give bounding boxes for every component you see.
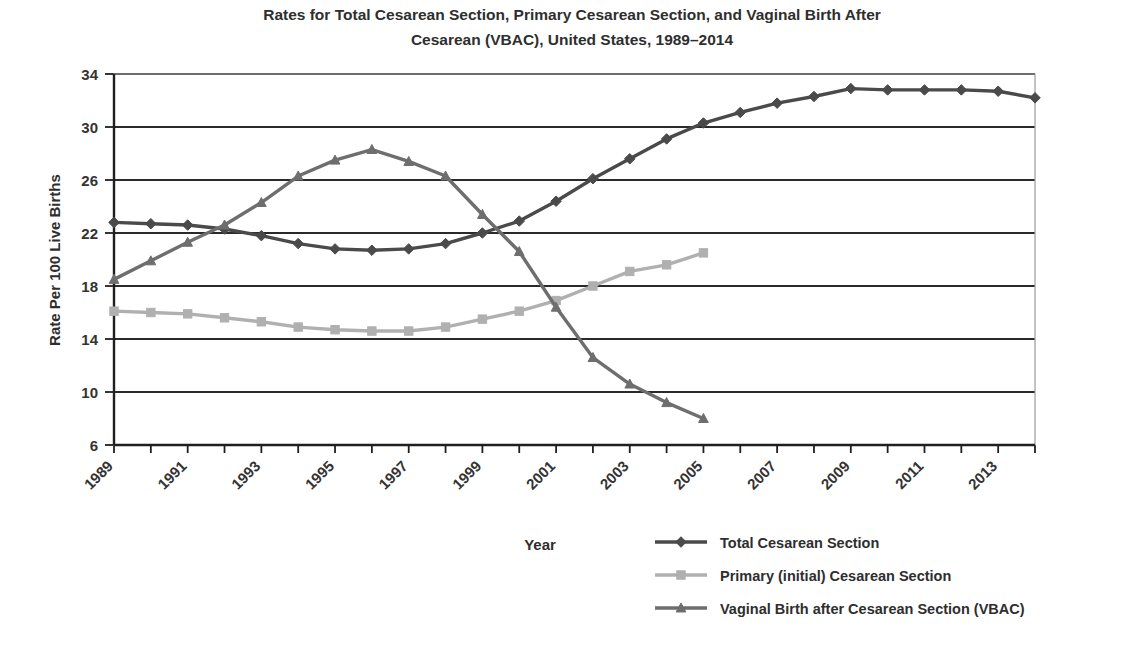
data-point-marker [699,249,707,257]
legend-item-label: Vaginal Birth after Cesarean Section (VB… [720,601,1025,617]
data-point-marker [257,318,265,326]
data-point-marker [110,307,118,315]
data-point-marker [441,323,449,331]
chart-title-line-2: Cesarean (VBAC), United States, 1989–201… [411,31,734,48]
y-tick-label: 30 [81,119,98,136]
data-point-marker [331,326,339,334]
chart-background [0,0,1144,646]
y-tick-label: 18 [81,278,98,295]
data-point-marker [626,267,634,275]
y-axis-title: Rate Per 100 Live Births [46,174,63,346]
data-point-marker [294,323,302,331]
data-point-marker [368,327,376,335]
y-tick-label: 22 [81,225,98,242]
legend-item-label: Total Cesarean Section [720,535,879,551]
y-tick-label: 14 [81,331,98,348]
legend-item-label: Primary (initial) Cesarean Section [720,568,951,584]
chart-title-line-1: Rates for Total Cesarean Section, Primar… [263,6,881,23]
data-point-marker [662,261,670,269]
legend-swatch-marker [677,571,685,579]
chart-figure: Rates for Total Cesarean Section, Primar… [0,0,1144,646]
data-point-marker [515,307,523,315]
x-axis-title: Year [524,536,556,553]
y-tick-label: 34 [81,66,98,83]
y-tick-label: 26 [81,172,98,189]
data-point-marker [183,310,191,318]
data-point-marker [220,314,228,322]
data-point-marker [478,315,486,323]
data-point-marker [405,327,413,335]
y-tick-label: 10 [81,384,98,401]
data-point-marker [147,308,155,316]
y-tick-label: 6 [90,437,98,454]
data-point-marker [589,282,597,290]
